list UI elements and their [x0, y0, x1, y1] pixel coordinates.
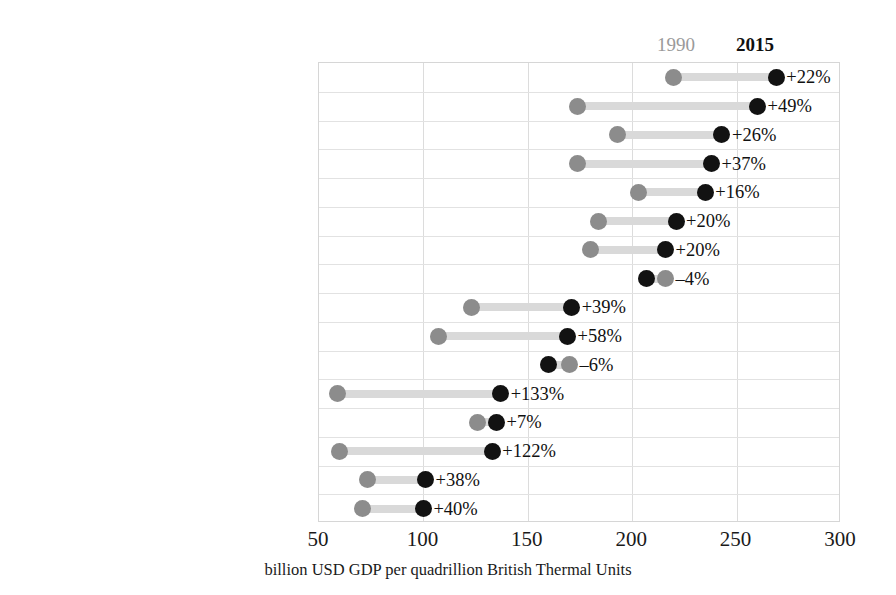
chart-row: Middle East–6% — [319, 351, 839, 380]
change-label: +40% — [433, 498, 477, 520]
connector-bar — [471, 303, 571, 311]
data-point-1990[interactable] — [469, 414, 486, 431]
data-point-1990[interactable] — [354, 500, 371, 517]
data-point-2015[interactable] — [749, 98, 766, 115]
change-label: +20% — [686, 210, 730, 232]
change-label: +7% — [506, 411, 541, 433]
change-label: +26% — [732, 124, 776, 146]
data-point-1990[interactable] — [590, 213, 607, 230]
connector-bar — [438, 332, 567, 340]
data-point-2015[interactable] — [697, 184, 714, 201]
data-point-1990[interactable] — [665, 69, 682, 86]
chart-row: Japan+20% — [319, 236, 839, 265]
connector-bar — [578, 160, 712, 168]
data-point-1990[interactable] — [582, 241, 599, 258]
chart-row: Other non-OECD Asia+16% — [319, 178, 839, 207]
connector-bar — [638, 188, 705, 196]
data-point-1990[interactable] — [569, 98, 586, 115]
data-point-2015[interactable] — [559, 328, 576, 345]
change-label: +22% — [786, 66, 830, 88]
data-point-2015[interactable] — [713, 126, 730, 143]
chart-row: Australia/New Zealand+39% — [319, 293, 839, 322]
change-label: +39% — [582, 296, 626, 318]
chart-row: Other non-OECD Americas+26% — [319, 121, 839, 150]
data-point-1990[interactable] — [561, 356, 578, 373]
data-point-1990[interactable] — [329, 385, 346, 402]
change-label: +133% — [511, 383, 565, 405]
chart-row: China+133% — [319, 379, 839, 408]
chart-row: Russia+40% — [319, 494, 839, 523]
change-label: –4% — [676, 268, 710, 290]
connector-bar — [599, 217, 676, 225]
plot-area: Mexico/Chile+22%India+49%Other non-OECD … — [318, 62, 840, 522]
x-tick-label: 100 — [407, 526, 439, 552]
x-tick-label: 300 — [824, 526, 856, 552]
connector-bar — [674, 73, 776, 81]
data-point-1990[interactable] — [331, 443, 348, 460]
data-point-2015[interactable] — [768, 69, 785, 86]
data-point-2015[interactable] — [703, 155, 720, 172]
change-label: +122% — [502, 440, 556, 462]
chart-row: India+49% — [319, 92, 839, 121]
connector-bar — [618, 131, 722, 139]
data-point-1990[interactable] — [657, 270, 674, 287]
chart-row: United States+58% — [319, 322, 839, 351]
data-point-2015[interactable] — [563, 299, 580, 316]
connector-bar — [340, 447, 492, 455]
data-point-2015[interactable] — [488, 414, 505, 431]
change-label: +20% — [676, 239, 720, 261]
data-point-1990[interactable] — [430, 328, 447, 345]
data-point-1990[interactable] — [463, 299, 480, 316]
connector-bar — [578, 102, 758, 110]
connector-bar — [338, 390, 501, 398]
change-label: +38% — [435, 469, 479, 491]
change-label: +49% — [767, 95, 811, 117]
chart-row: Canada+38% — [319, 466, 839, 495]
legend-label-1990: 1990 — [657, 33, 695, 57]
change-label: +37% — [722, 153, 766, 175]
data-point-2015[interactable] — [417, 471, 434, 488]
data-point-1990[interactable] — [569, 155, 586, 172]
chart-row: South Korea+7% — [319, 408, 839, 437]
connector-bar — [590, 246, 665, 254]
change-label: +16% — [715, 181, 759, 203]
change-label: –6% — [580, 354, 614, 376]
data-point-2015[interactable] — [657, 241, 674, 258]
chart-row: Mexico/Chile+22% — [319, 63, 839, 92]
dumbbell-chart: 1990 2015 Mexico/Chile+22%India+49%Other… — [0, 0, 896, 595]
chart-row: Other non-OECD Europe/Eurasia+122% — [319, 437, 839, 466]
data-point-2015[interactable] — [484, 443, 501, 460]
data-point-2015[interactable] — [415, 500, 432, 517]
data-point-2015[interactable] — [638, 270, 655, 287]
chart-row: OECD Europe+37% — [319, 149, 839, 178]
change-label: +58% — [577, 325, 621, 347]
chart-row: Brazil–4% — [319, 264, 839, 293]
data-point-1990[interactable] — [359, 471, 376, 488]
x-tick-label: 200 — [615, 526, 647, 552]
x-tick-label: 150 — [511, 526, 543, 552]
x-axis-title: billion USD GDP per quadrillion British … — [0, 560, 896, 580]
legend-label-2015: 2015 — [736, 33, 774, 57]
data-point-1990[interactable] — [630, 184, 647, 201]
chart-row: Africa+20% — [319, 207, 839, 236]
data-point-2015[interactable] — [492, 385, 509, 402]
data-point-2015[interactable] — [540, 356, 557, 373]
x-tick-label: 50 — [308, 526, 329, 552]
data-point-2015[interactable] — [668, 213, 685, 230]
x-tick-label: 250 — [720, 526, 752, 552]
data-point-1990[interactable] — [609, 126, 626, 143]
